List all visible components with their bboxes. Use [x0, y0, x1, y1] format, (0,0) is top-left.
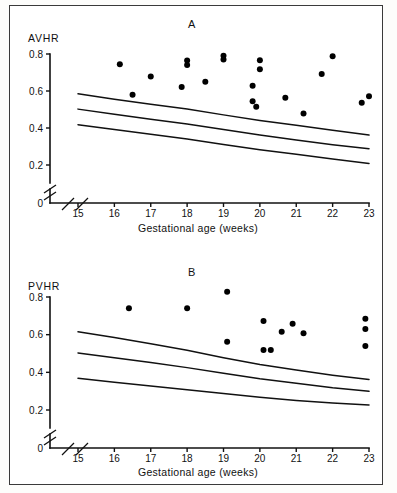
svg-text:0.6: 0.6	[29, 86, 43, 97]
data-point	[261, 318, 267, 324]
svg-text:19: 19	[218, 208, 230, 219]
data-point	[148, 74, 154, 80]
svg-text:21: 21	[291, 453, 303, 464]
data-point	[330, 53, 336, 59]
data-point	[250, 83, 256, 89]
data-point	[130, 92, 136, 98]
data-point	[202, 79, 208, 85]
reference-curve-1	[78, 332, 369, 380]
svg-text:0.8: 0.8	[29, 49, 43, 60]
data-point	[279, 329, 285, 335]
panel-b: B PVHR Gestational age (weeks) 0.80.60.4…	[0, 250, 397, 493]
data-point	[117, 61, 123, 67]
data-point	[319, 71, 325, 77]
svg-text:16: 16	[109, 208, 121, 219]
svg-text:18: 18	[182, 453, 194, 464]
svg-text:22: 22	[327, 208, 339, 219]
svg-text:0.4: 0.4	[29, 123, 43, 134]
panel-b-plot: 0.80.60.40.20151617181920212223	[0, 250, 397, 493]
data-point	[253, 104, 259, 110]
data-point	[366, 93, 372, 99]
svg-text:0.2: 0.2	[29, 160, 43, 171]
svg-text:0: 0	[37, 198, 43, 209]
svg-text:19: 19	[218, 453, 230, 464]
data-point	[257, 57, 263, 63]
data-point	[184, 305, 190, 311]
svg-text:15: 15	[72, 453, 84, 464]
reference-curve-2	[78, 353, 369, 391]
svg-text:0.6: 0.6	[29, 329, 43, 340]
data-point	[301, 330, 307, 336]
svg-text:22: 22	[327, 453, 339, 464]
svg-text:20: 20	[254, 208, 266, 219]
data-point	[184, 62, 190, 68]
panel-a-plot: 0.80.60.40.20151617181920212223	[0, 0, 397, 250]
data-point	[250, 98, 256, 104]
data-point	[301, 111, 307, 117]
data-point	[126, 305, 132, 311]
data-point	[221, 57, 227, 63]
svg-text:0: 0	[37, 443, 43, 454]
svg-text:0.2: 0.2	[29, 405, 43, 416]
svg-text:15: 15	[72, 208, 84, 219]
data-point	[257, 66, 263, 72]
reference-curve-3	[78, 378, 369, 405]
svg-text:23: 23	[363, 453, 375, 464]
data-point	[224, 289, 230, 295]
data-point	[261, 347, 267, 353]
data-point	[359, 100, 365, 106]
svg-text:18: 18	[182, 208, 194, 219]
svg-text:21: 21	[291, 208, 303, 219]
data-point	[362, 326, 368, 332]
data-point	[282, 95, 288, 101]
svg-text:17: 17	[145, 453, 157, 464]
data-point	[268, 347, 274, 353]
svg-text:17: 17	[145, 208, 157, 219]
data-point	[290, 321, 296, 327]
panel-a: A AVHR Gestational age (weeks) 0.80.60.4…	[0, 0, 397, 250]
data-point	[224, 339, 230, 345]
svg-text:16: 16	[109, 453, 121, 464]
svg-text:0.8: 0.8	[29, 292, 43, 303]
figure-root: A AVHR Gestational age (weeks) 0.80.60.4…	[0, 0, 397, 493]
data-point	[362, 316, 368, 322]
svg-text:20: 20	[254, 453, 266, 464]
data-point	[179, 84, 185, 90]
svg-text:0.4: 0.4	[29, 367, 43, 378]
svg-text:23: 23	[363, 208, 375, 219]
data-point	[362, 343, 368, 349]
